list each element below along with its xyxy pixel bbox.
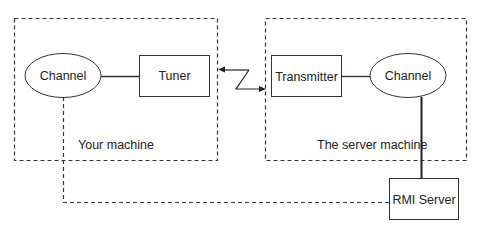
rmi-server-label: RMI Server xyxy=(392,193,455,207)
transmitter-node: Transmitter xyxy=(272,56,342,97)
tuner-node: Tuner xyxy=(140,56,210,97)
client-channel-label: Channel xyxy=(40,69,87,83)
server-channel-node: Channel xyxy=(370,54,446,98)
client-channel-node: Channel xyxy=(25,54,101,98)
server-machine-label: The server machine xyxy=(317,138,428,152)
diagram-canvas: Channel Tuner Transmitter Channel RMI Se… xyxy=(0,0,482,229)
tuner-label: Tuner xyxy=(158,69,190,83)
rmi-server-node: RMI Server xyxy=(390,179,459,220)
transmitter-label: Transmitter xyxy=(275,70,338,84)
server-channel-label: Channel xyxy=(385,69,432,83)
lightning-bolt-link-icon xyxy=(218,67,266,93)
your-machine-label: Your machine xyxy=(78,138,154,152)
